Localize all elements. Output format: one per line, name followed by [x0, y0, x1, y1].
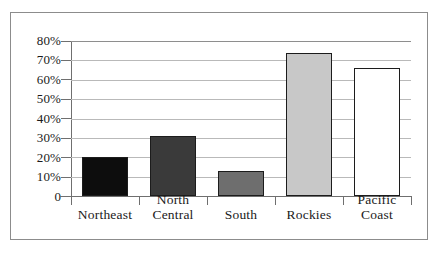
label-line: Pacific: [343, 192, 411, 207]
y-tick-label: 70%: [15, 53, 61, 66]
y-tick-mark: [61, 79, 71, 80]
x-category-label-pacific-coast: Pacific Coast: [343, 192, 411, 222]
bar-south[interactable]: [218, 171, 264, 196]
y-tick-label: 10%: [15, 170, 61, 183]
bar-northeast[interactable]: [82, 157, 128, 196]
y-tick-mark: [61, 157, 71, 158]
x-category-label-northeast: Northeast: [71, 207, 139, 222]
y-tick-mark: [61, 118, 71, 119]
label-line: Central: [139, 207, 207, 222]
gridline-70: [71, 60, 411, 61]
y-tick-mark: [61, 60, 71, 61]
x-category-label-south: South: [207, 207, 275, 222]
y-tick-mark: [61, 177, 71, 178]
y-tick-label: 30%: [15, 131, 61, 144]
label-line: Northeast: [71, 207, 139, 222]
label-line: South: [207, 207, 275, 222]
bar-rockies[interactable]: [286, 53, 332, 196]
label-line: Rockies: [275, 207, 343, 222]
y-tick-label: 60%: [15, 73, 61, 86]
label-line: North: [139, 192, 207, 207]
x-tick-mark: [71, 197, 72, 205]
y-tick-mark: [61, 41, 71, 42]
bar-pacific-coast[interactable]: [354, 68, 400, 196]
x-tick-mark: [411, 197, 412, 205]
label-line: Coast: [343, 207, 411, 222]
x-tick-mark: [275, 197, 276, 205]
gridline-80: [71, 41, 411, 42]
chart-figure: 80% 70% 60% 50% 40% 30% 20% 10% 0: [10, 12, 428, 240]
y-tick-label: 80%: [15, 34, 61, 47]
y-tick-label: 0: [15, 190, 61, 203]
y-tick-label: 20%: [15, 151, 61, 164]
x-category-label-rockies: Rockies: [275, 207, 343, 222]
plot-area: [71, 41, 411, 196]
y-tick-label: 50%: [15, 92, 61, 105]
y-tick-mark: [61, 138, 71, 139]
y-tick-mark: [61, 99, 71, 100]
bar-north-central[interactable]: [150, 136, 196, 196]
y-tick-label: 40%: [15, 112, 61, 125]
x-category-label-north-central: North Central: [139, 192, 207, 222]
x-tick-mark: [207, 197, 208, 205]
